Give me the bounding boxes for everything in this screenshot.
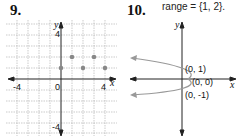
graph-10-y-label: y — [174, 19, 180, 30]
origin-label: 0 — [55, 82, 60, 92]
graph-10-x-label: x — [229, 79, 235, 90]
x-max-label: 4 — [101, 82, 106, 92]
graph-10-axes — [130, 22, 236, 136]
graphs: -4 0 4 x y 4 -4 y x (0, 1) (0, 0) (0, -1… — [0, 0, 238, 136]
x-min-label: -4 — [13, 82, 21, 92]
point-label-0-neg1: (0, -1) — [185, 90, 209, 100]
y-max-label: 4 — [55, 29, 60, 39]
point-label-0-1: (0, 1) — [185, 64, 206, 74]
x-axis-label: x — [109, 77, 115, 88]
graph-9-axes — [8, 22, 116, 136]
point-label-0-0: (0, 0) — [192, 77, 213, 87]
y-min-label: -4 — [52, 122, 60, 132]
